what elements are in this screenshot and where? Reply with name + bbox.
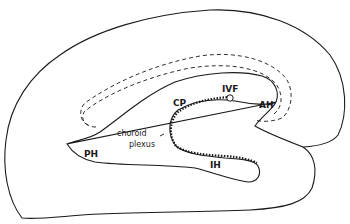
ivf-foramen [227, 95, 233, 101]
ventricle-outline [67, 73, 303, 182]
ventricle-diagram: CP IVF AH PH IH choroid plexus [0, 0, 350, 224]
label-ih: IH [210, 160, 221, 170]
label-cp: CP [173, 98, 187, 108]
label-ah: AH [259, 100, 274, 110]
dashed-outline-outer [81, 54, 291, 125]
label-ph: PH [84, 149, 98, 159]
label-plexus: plexus [129, 140, 155, 149]
choroid-pointer [160, 134, 164, 136]
dashed-outline-inner [83, 66, 281, 127]
label-ivf: IVF [222, 84, 238, 94]
label-choroid: choroid [117, 129, 147, 138]
